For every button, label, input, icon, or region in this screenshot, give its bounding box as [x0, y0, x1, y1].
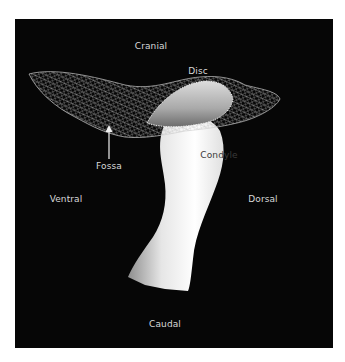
label-dorsal: Dorsal — [248, 194, 277, 204]
label-fossa: Fossa — [96, 161, 122, 171]
fossa-arrow — [106, 125, 113, 159]
label-cranial: Cranial — [135, 41, 167, 51]
condyle-bone — [128, 116, 224, 291]
figure-panel: Cranial Disc Fossa Condyle Ventral Dorsa… — [15, 19, 333, 348]
tmj-3d-render — [15, 19, 333, 348]
label-condyle: Condyle — [200, 150, 237, 160]
fossa-mesh — [29, 72, 280, 138]
label-caudal: Caudal — [149, 319, 181, 329]
label-disc: Disc — [188, 66, 207, 76]
label-ventral: Ventral — [50, 194, 83, 204]
